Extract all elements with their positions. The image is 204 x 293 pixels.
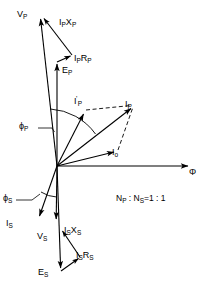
label-isrs: ISRS (76, 251, 94, 260)
vector-es (57, 166, 61, 268)
vector-ip-prime (57, 114, 84, 166)
label-phi-p: ϕP (19, 122, 28, 131)
label-flux-axis: Φ (189, 168, 196, 177)
turns-ratio-annotation: NP : NS=1 : 1 (116, 193, 166, 203)
phasor-diagram-canvas (0, 0, 204, 293)
label-phi-s: ϕS (3, 194, 12, 203)
label-is: IS (6, 219, 13, 228)
angle-arc-phi-s (41, 192, 57, 197)
vector-iprp (57, 56, 71, 62)
label-ip: IP (125, 100, 132, 109)
vector-is (40, 166, 58, 216)
phasor-diagram-figure: VP IPXP IPRP EP I'P IP Io ϕP ϕS IS VS IS… (0, 0, 204, 293)
vector-vp (41, 19, 57, 166)
label-isxs: ISXS (64, 226, 81, 235)
label-vp: VP (17, 10, 27, 19)
label-ep: EP (62, 66, 72, 75)
vector-isrs (61, 259, 79, 272)
label-io: Io (112, 148, 118, 157)
label-es: ES (38, 268, 48, 277)
leader-line-phi-s-hook (32, 194, 40, 200)
label-iprp: IPRP (74, 54, 92, 63)
label-ipxp: IPXP (59, 18, 76, 27)
label-vs: VS (37, 232, 47, 241)
label-ip-prime: I'P (74, 97, 82, 106)
